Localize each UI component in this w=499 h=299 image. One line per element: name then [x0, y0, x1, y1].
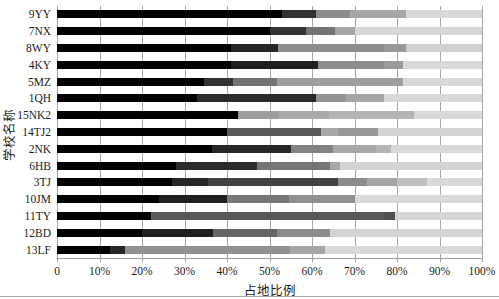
bar-segment — [57, 195, 159, 203]
bar-segment — [57, 229, 142, 237]
bar-row-4KY — [57, 61, 482, 69]
bar-segment — [57, 162, 176, 170]
bar-segment — [212, 145, 291, 153]
bar-segment — [227, 195, 289, 203]
bar-row-2NK — [57, 145, 482, 153]
bar-segment — [213, 229, 277, 237]
bar-segment — [57, 94, 197, 102]
bar-segment — [384, 212, 395, 220]
bar-row-7NX — [57, 27, 482, 35]
bar-segment — [57, 78, 204, 86]
bar-segment — [384, 44, 405, 52]
y-category-label: 1QH — [0, 92, 51, 104]
bar-segment — [316, 94, 346, 102]
y-category-label: 10JM — [0, 193, 51, 205]
y-category-label: 15NK2 — [0, 109, 51, 121]
bar-segment — [176, 162, 257, 170]
bar-segment — [277, 78, 404, 86]
y-category-label: 7NX — [0, 25, 51, 37]
bar-segment — [376, 145, 391, 153]
plot-area — [57, 6, 482, 258]
x-tick-label: 70% — [344, 265, 365, 277]
bar-row-10JM — [57, 195, 482, 203]
bar-segment — [384, 61, 403, 69]
bar-segment — [227, 128, 321, 136]
bar-segment — [57, 178, 172, 186]
bar-row-15NK2 — [57, 111, 482, 119]
x-tick-mark — [185, 258, 186, 262]
y-category-label: 2NK — [0, 143, 51, 155]
bar-segment — [350, 10, 405, 18]
bar-segment — [403, 61, 482, 69]
bar-segment — [378, 128, 482, 136]
bar-segment — [346, 94, 384, 102]
bar-segment — [278, 44, 384, 52]
bar-segment — [57, 10, 282, 18]
bar-segment — [338, 128, 378, 136]
bar-segment — [233, 78, 276, 86]
bar-row-8WY — [57, 44, 482, 52]
bar-segment — [427, 178, 482, 186]
x-tick-mark — [142, 258, 143, 262]
bar-segment — [125, 246, 290, 254]
bar-segment — [57, 111, 238, 119]
gridline — [482, 6, 483, 258]
bar-row-14TJ2 — [57, 128, 482, 136]
bar-segment — [306, 27, 336, 35]
x-tick-mark — [312, 258, 313, 262]
y-axis-category-labels: 9YY7NX8WY4KY5MZ1QH15NK214TJ22NK6HB3TJ10J… — [0, 6, 54, 258]
x-tick-label: 40% — [216, 265, 237, 277]
bar-row-3TJ — [57, 178, 482, 186]
bar-segment — [414, 111, 482, 119]
bar-row-11TY — [57, 212, 482, 220]
bar-segment — [142, 229, 213, 237]
bar-segment — [151, 212, 385, 220]
x-tick-label: 60% — [301, 265, 322, 277]
bar-segment — [289, 195, 355, 203]
y-category-label: 12BD — [0, 227, 51, 239]
x-tick-label: 30% — [174, 265, 195, 277]
bar-row-6HB — [57, 162, 482, 170]
bar-segment — [278, 111, 329, 119]
bar-segment — [159, 195, 227, 203]
y-category-label: 11TY — [0, 210, 51, 222]
bar-row-13LF — [57, 246, 482, 254]
bar-row-1QH — [57, 94, 482, 102]
x-tick-mark — [57, 258, 58, 262]
bar-segment — [208, 178, 338, 186]
x-tick-mark — [397, 258, 398, 262]
bar-segment — [277, 229, 331, 237]
bar-segment — [57, 44, 231, 52]
x-tick-mark — [270, 258, 271, 262]
y-category-label: 14TJ2 — [0, 126, 51, 138]
bar-segment — [231, 44, 278, 52]
chart-border — [0, 296, 499, 297]
x-tick-label: 0 — [54, 265, 60, 277]
bar-segment — [330, 229, 482, 237]
bar-segment — [238, 111, 278, 119]
bar-segment — [406, 44, 483, 52]
bar-segment — [270, 27, 306, 35]
bar-segment — [204, 78, 234, 86]
bar-segment — [406, 10, 483, 18]
x-tick-label: 100% — [469, 265, 496, 277]
bar-segment — [391, 145, 482, 153]
bar-segment — [338, 178, 368, 186]
y-category-label: 6HB — [0, 160, 51, 172]
x-tick-label: 80% — [386, 265, 407, 277]
bar-segment — [290, 246, 325, 254]
bar-segment — [110, 246, 125, 254]
bar-segment — [340, 162, 482, 170]
bar-segment — [57, 61, 231, 69]
x-tick-mark — [440, 258, 441, 262]
x-tick-mark — [355, 258, 356, 262]
bar-segment — [355, 27, 483, 35]
bar-segment — [257, 162, 331, 170]
bar-segment — [355, 195, 483, 203]
bar-segment — [57, 212, 151, 220]
bar-segment — [333, 145, 376, 153]
bar-segment — [57, 27, 270, 35]
bar-segment — [384, 94, 482, 102]
y-category-label: 13LF — [0, 244, 51, 256]
bar-row-5MZ — [57, 78, 482, 86]
